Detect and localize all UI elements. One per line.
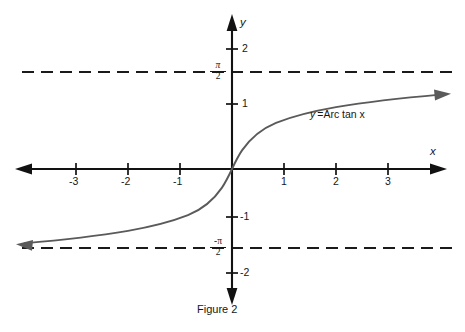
y-tick-label--1: -1 (240, 211, 249, 222)
x-tick-label-3: 3 (385, 176, 391, 187)
curve-equation-expression: =Arc tan x (317, 108, 365, 120)
plot-canvas (0, 0, 465, 332)
curve-arrow-right (434, 90, 451, 101)
x-tick-label--2: -2 (121, 176, 130, 187)
asymptote-upper-label: π 2 (210, 61, 226, 82)
x-axis-arrow-right (430, 164, 447, 175)
x-tick-label-2: 2 (333, 176, 339, 187)
y-tick-label-1: 1 (242, 98, 248, 109)
y-axis-label: y (240, 17, 246, 29)
curve-equation-variable: y (310, 108, 315, 120)
figure-arctan: y x -3 -2 -1 1 2 3 2 1 -1 -2 π 2 -π 2 y=… (0, 0, 465, 332)
x-tick-label--1: -1 (173, 176, 182, 187)
x-tick-label--3: -3 (69, 176, 78, 187)
y-axis-arrow-up (227, 14, 238, 31)
y-tick-label--2: -2 (240, 267, 249, 278)
figure-caption: Figure 2 (197, 303, 237, 315)
y-tick-label-2: 2 (242, 43, 248, 54)
asymptote-lower-label: -π 2 (210, 237, 226, 258)
curve-arrow-left (16, 240, 33, 251)
curve-equation-label: y=Arc tan x (310, 108, 365, 120)
x-axis-arrow-left (15, 164, 32, 175)
x-tick-label-1: 1 (281, 176, 287, 187)
asymptote-lower-denominator: 2 (210, 248, 226, 258)
x-axis-label: x (430, 146, 436, 158)
asymptote-upper-denominator: 2 (210, 72, 226, 82)
